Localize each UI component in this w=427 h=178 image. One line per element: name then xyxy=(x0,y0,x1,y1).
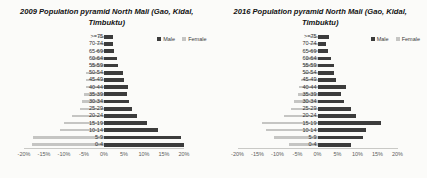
pyramid-row: 5-9 xyxy=(238,134,398,141)
age-label: >=75 xyxy=(90,33,104,40)
male-bar xyxy=(104,136,181,140)
pyramid-row: 5-9 xyxy=(24,134,184,141)
x-tick-label: 5% xyxy=(120,151,128,157)
age-label: 60-64 xyxy=(89,55,104,62)
x-tick-label: 10% xyxy=(352,151,363,157)
legend: Male Female xyxy=(157,36,206,42)
male-bar xyxy=(104,71,123,75)
pyramid-row: 50-54 xyxy=(24,69,184,76)
age-label: 35-39 xyxy=(302,91,317,98)
legend-item-female: Female xyxy=(182,36,206,42)
male-swatch-icon xyxy=(371,37,375,41)
pyramid-row: 30-34 xyxy=(24,98,184,105)
x-tick-label: 5% xyxy=(334,151,342,157)
male-bar xyxy=(104,42,113,46)
pyramid-row: 60-64 xyxy=(238,55,398,62)
legend-label-male: Male xyxy=(377,36,389,42)
pyramid-row: 15-19 xyxy=(238,120,398,127)
age-label: 5-9 xyxy=(309,134,318,141)
male-bar xyxy=(104,143,184,147)
x-axis: -20%-15%-10%-5%0%5%10%15%20% xyxy=(24,149,184,161)
pyramid-row: 40-44 xyxy=(24,84,184,91)
x-tick-label: -15% xyxy=(251,151,264,157)
pyramid-row: 60-64 xyxy=(24,55,184,62)
male-bar xyxy=(104,78,124,82)
male-bar xyxy=(318,92,341,96)
x-tick-label: 0% xyxy=(314,151,322,157)
x-tick-label: 0% xyxy=(100,151,108,157)
male-bar xyxy=(318,42,327,46)
pyramid-row: 55-59 xyxy=(24,62,184,69)
male-bar xyxy=(318,71,335,75)
x-tick-label: -10% xyxy=(58,151,71,157)
male-bar xyxy=(318,128,366,132)
pyramid-row: 20-24 xyxy=(238,112,398,119)
chart-panel-2016: 2016 Population pyramid North Mali (Gao,… xyxy=(214,0,427,178)
male-bar xyxy=(104,128,158,132)
male-bar xyxy=(318,78,336,82)
legend: Male Female xyxy=(371,36,420,42)
age-label: 25-29 xyxy=(302,105,317,112)
pyramid-row: 15-19 xyxy=(24,120,184,127)
legend-item-female: Female xyxy=(396,36,420,42)
x-tick-label: -5% xyxy=(79,151,89,157)
pyramid-row: 55-59 xyxy=(238,62,398,69)
x-tick-label: 15% xyxy=(372,151,383,157)
age-label: 70-74 xyxy=(302,40,317,47)
pyramid-row: 50-54 xyxy=(238,69,398,76)
age-label: 40-44 xyxy=(302,84,317,91)
male-bar xyxy=(318,121,381,125)
legend-label-female: Female xyxy=(188,36,206,42)
age-label: 50-54 xyxy=(302,69,317,76)
x-tick-label: -15% xyxy=(38,151,51,157)
x-axis: -20%-15%-10%-5%0%5%10%15%20% xyxy=(238,149,398,161)
pyramid-row: 25-29 xyxy=(238,105,398,112)
x-tick-label: 20% xyxy=(392,151,403,157)
plot-area: >=7570-7465-6960-6455-5950-5445-4940-443… xyxy=(24,33,184,149)
pyramid-row: 30-34 xyxy=(238,98,398,105)
male-bar xyxy=(104,121,147,125)
male-bar xyxy=(318,49,328,53)
male-bar xyxy=(104,107,132,111)
male-bar xyxy=(318,114,356,118)
age-label: 5-9 xyxy=(95,134,104,141)
chart-title-2016: 2016 Population pyramid North Mali (Gao,… xyxy=(222,7,418,28)
female-swatch-icon xyxy=(396,37,400,41)
male-bar xyxy=(104,49,114,53)
age-label: 65-69 xyxy=(302,48,317,55)
age-label: 55-59 xyxy=(89,62,104,69)
male-bar xyxy=(104,57,117,61)
age-label: 25-29 xyxy=(89,105,104,112)
age-label: 30-34 xyxy=(89,98,104,105)
pyramid-row: 65-69 xyxy=(24,48,184,55)
age-label: 30-34 xyxy=(302,98,317,105)
x-tick-label: -10% xyxy=(271,151,284,157)
female-bar xyxy=(32,143,104,145)
chart-title-2009: 2009 Population pyramid North Mali (Gao,… xyxy=(9,7,205,28)
female-swatch-icon xyxy=(182,37,186,41)
male-bar xyxy=(104,35,113,39)
age-label: 20-24 xyxy=(89,112,104,119)
male-bar xyxy=(318,64,335,68)
male-bar xyxy=(104,85,128,89)
pyramid-row: 10-14 xyxy=(24,127,184,134)
x-tick-label: 15% xyxy=(158,151,169,157)
age-label: 0-4 xyxy=(95,141,104,148)
pyramid-row: 20-24 xyxy=(24,112,184,119)
plot-area: >=7570-7465-6960-6455-5950-5445-4940-443… xyxy=(238,33,398,149)
male-bar xyxy=(318,136,363,140)
pyramid-row: 65-69 xyxy=(238,48,398,55)
x-tick-label: -20% xyxy=(18,151,31,157)
document-page: 2009 Population pyramid North Mali (Gao,… xyxy=(0,0,427,178)
age-label: 50-54 xyxy=(89,69,104,76)
chart-panel-2009: 2009 Population pyramid North Mali (Gao,… xyxy=(0,0,214,178)
chart-area-2009: Male Female >=7570-7465-6960-6455-5950-5… xyxy=(0,33,214,161)
pyramid-row: 35-39 xyxy=(24,91,184,98)
age-label: 65-69 xyxy=(89,48,104,55)
age-label: 45-49 xyxy=(89,76,104,83)
male-bar xyxy=(318,57,331,61)
female-bar xyxy=(33,136,104,138)
male-bar xyxy=(318,107,351,111)
age-label: 45-49 xyxy=(302,76,317,83)
age-label: >=75 xyxy=(304,33,318,40)
